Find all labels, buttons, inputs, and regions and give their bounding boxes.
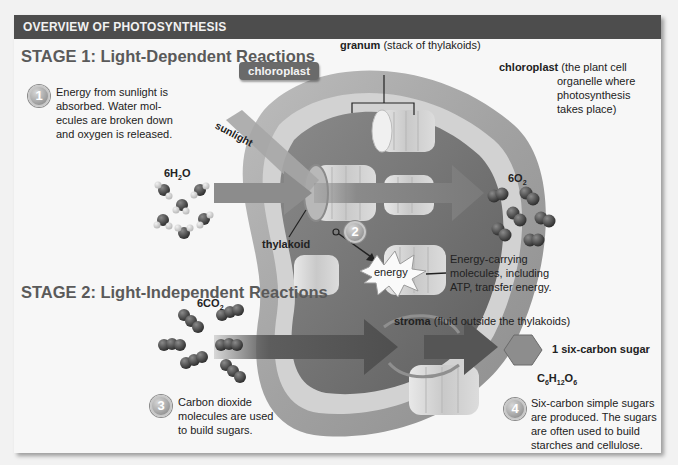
granum-label: granum (stack of thylakoids) (340, 39, 481, 51)
water-formula: 6H2O (164, 167, 191, 181)
stroma-label: stroma (fluid outside the thylakoids) (394, 315, 570, 327)
water-molecules (154, 182, 214, 240)
step2-description: Energy-carrying molecules, including ATP… (450, 252, 620, 294)
photosynthesis-overview-panel: OVERVIEW OF PHOTOSYNTHESIS (14, 15, 661, 453)
co2-molecules (158, 304, 246, 383)
stage2-title: STAGE 2: Light-Independent Reactions (21, 283, 328, 302)
step1-badge: 1 (28, 85, 50, 107)
glucose-formula: C6H12O6 (537, 372, 577, 386)
step1-description: Energy from sunlight is absorbed. Water … (56, 85, 226, 141)
thylakoid-label: thylakoid (262, 238, 310, 250)
step3-badge: 3 (150, 395, 172, 417)
step4-badge: 4 (504, 398, 526, 420)
step4-description: Six-carbon simple sugars are produced. T… (531, 396, 661, 452)
step3-description: Carbon dioxide molecules are used to bui… (178, 395, 318, 437)
sugar-label: 1 six-carbon sugar (552, 343, 650, 355)
step2-badge: 2 (344, 221, 366, 243)
energy-label: energy (374, 266, 408, 278)
granum-top (372, 110, 435, 152)
co2-formula: 6CO2 (197, 297, 224, 311)
chloroplast-definition: chloroplast (the plant cell organelle wh… (499, 60, 659, 116)
chloroplast-tag: chloroplast (239, 62, 319, 80)
oxygen-formula: 6O2 (508, 172, 527, 186)
